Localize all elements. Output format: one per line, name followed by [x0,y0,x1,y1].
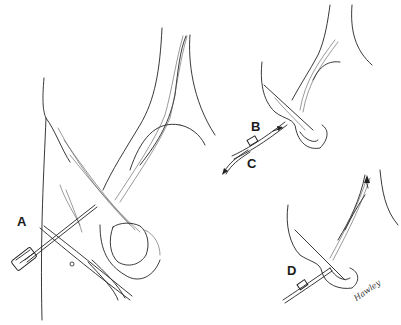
label-d: D [287,263,296,278]
panel-a-drawing [11,28,215,320]
panel-bc-drawing [222,5,372,175]
label-c: C [247,156,256,171]
illustration-canvas [0,0,401,325]
label-b: B [251,119,260,134]
label-a: A [17,214,26,229]
